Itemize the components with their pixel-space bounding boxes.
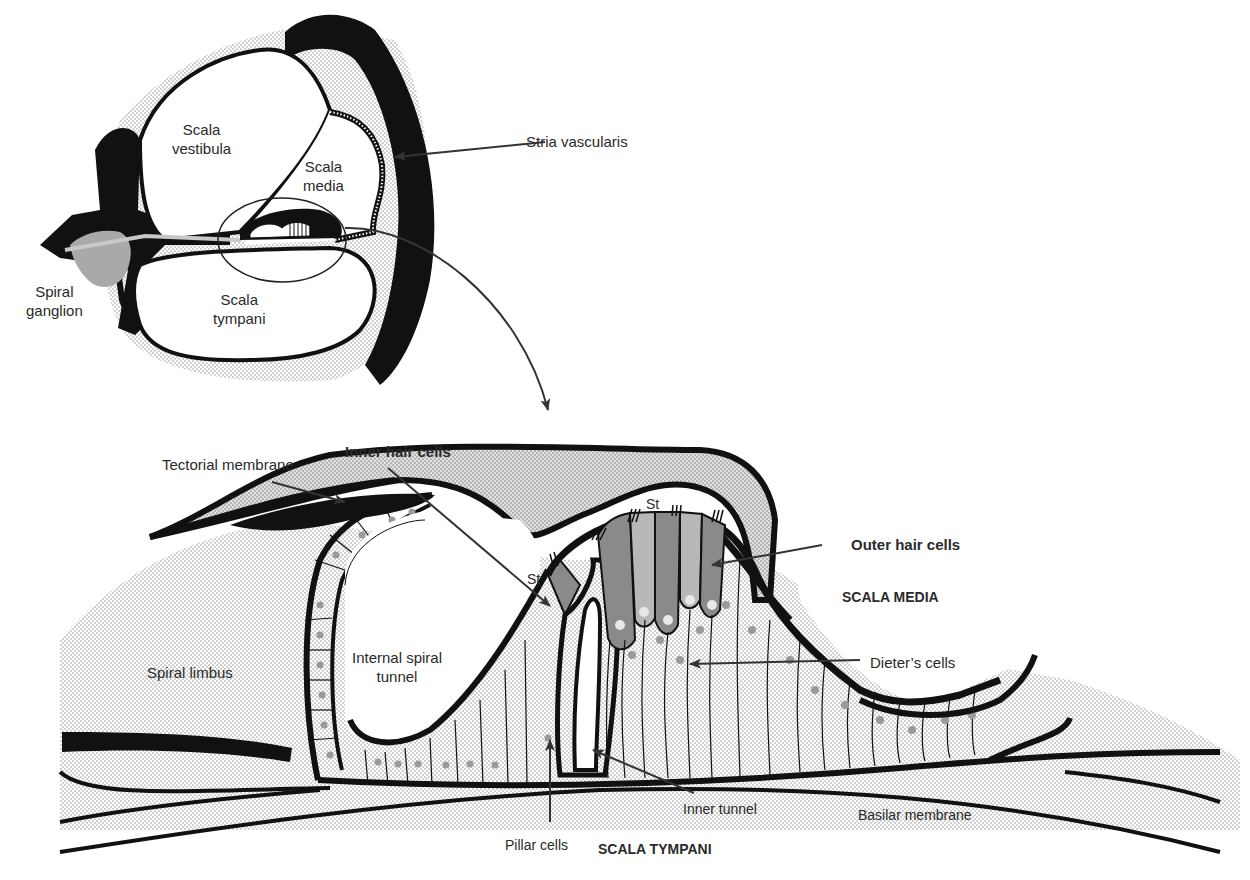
label-outer-hair-cells: Outer hair cells bbox=[851, 535, 960, 554]
label-line: Scala bbox=[172, 120, 231, 139]
label-inner-hair-cells: Inner hair cells bbox=[345, 442, 451, 461]
label-inner-tunnel: Inner tunnel bbox=[683, 800, 757, 819]
label-line: ganglion bbox=[26, 301, 83, 320]
label-line: Spiral bbox=[26, 282, 83, 301]
label-scala-tympani: SCALA TYMPANI bbox=[598, 840, 712, 859]
label-stereocilia-inner: St bbox=[527, 570, 540, 589]
label-spiral-ganglion: Spiral ganglion bbox=[26, 282, 83, 320]
label-scala-vestibula: Scala vestibula bbox=[172, 120, 231, 158]
label-line: vestibula bbox=[172, 139, 231, 158]
label-dieters-cells: Dieter’s cells bbox=[870, 653, 955, 672]
label-scala-media: SCALA MEDIA bbox=[842, 588, 939, 607]
label-line: tunnel bbox=[352, 667, 442, 686]
label-scala-tympani-overview: Scala tympani bbox=[213, 290, 266, 328]
overview-cross-section bbox=[40, 15, 548, 410]
label-scala-media-overview: Scala media bbox=[303, 157, 344, 195]
label-tectorial-membrane: Tectorial membrane bbox=[162, 455, 294, 474]
label-line: media bbox=[303, 176, 344, 195]
label-internal-spiral-tunnel: Internal spiral tunnel bbox=[352, 648, 442, 686]
label-line: Scala bbox=[213, 290, 266, 309]
label-stereocilia-outer: St bbox=[646, 495, 659, 514]
label-spiral-limbus: Spiral limbus bbox=[147, 663, 233, 682]
label-stria-vascularis: Stria vascularis bbox=[526, 132, 628, 151]
label-basilar-membrane: Basilar membrane bbox=[858, 806, 972, 825]
label-line: Internal spiral bbox=[352, 648, 442, 667]
label-pillar-cells: Pillar cells bbox=[505, 836, 568, 855]
label-line: tympani bbox=[213, 309, 266, 328]
label-line: Scala bbox=[303, 157, 344, 176]
